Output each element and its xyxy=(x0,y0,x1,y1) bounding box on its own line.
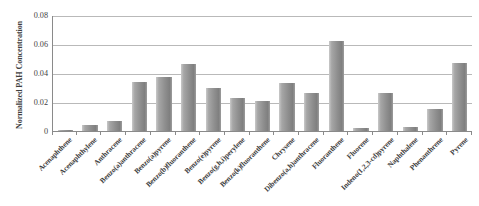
bar[interactable] xyxy=(304,93,319,131)
bar-slot xyxy=(275,16,300,131)
x-axis-tick-mark xyxy=(52,132,53,135)
bar-slot xyxy=(373,16,398,131)
bar-chart: Normalized PAH Concentration 00.020.040.… xyxy=(0,0,479,206)
bar-slot xyxy=(127,16,152,131)
bar-slot xyxy=(423,16,448,131)
y-axis-tick-label: 0.08 xyxy=(22,12,48,20)
y-axis-tick-label: 0.06 xyxy=(22,41,48,49)
bar-slot xyxy=(398,16,423,131)
bar-slot xyxy=(152,16,177,131)
bar-slot xyxy=(447,16,472,131)
bar[interactable] xyxy=(378,93,393,131)
bar[interactable] xyxy=(132,82,147,131)
x-axis-tick-mark xyxy=(471,132,472,135)
x-axis-category-label: Pyrene xyxy=(379,136,470,206)
bar-slot xyxy=(250,16,275,131)
bar-slot xyxy=(53,16,78,131)
bar[interactable] xyxy=(353,128,368,131)
bar[interactable] xyxy=(156,77,171,131)
bar[interactable] xyxy=(255,101,270,131)
bars-layer xyxy=(53,16,472,131)
bar[interactable] xyxy=(427,109,442,131)
bar-slot xyxy=(201,16,226,131)
bar[interactable] xyxy=(403,127,418,131)
bar-slot xyxy=(324,16,349,131)
y-axis-tick-label: 0 xyxy=(22,128,48,136)
bar[interactable] xyxy=(279,83,294,131)
plot-area xyxy=(52,16,472,132)
bar[interactable] xyxy=(82,125,97,131)
bar[interactable] xyxy=(230,98,245,131)
bar[interactable] xyxy=(181,64,196,131)
bar-slot xyxy=(78,16,103,131)
y-axis-tick-label: 0.02 xyxy=(22,99,48,107)
bar-slot xyxy=(349,16,374,131)
bar[interactable] xyxy=(107,121,122,131)
bar[interactable] xyxy=(329,41,344,131)
bar-slot xyxy=(176,16,201,131)
bar-slot xyxy=(102,16,127,131)
y-axis-tick-labels: 00.020.040.060.08 xyxy=(22,16,48,132)
bar-slot xyxy=(299,16,324,131)
y-axis-tick-label: 0.04 xyxy=(22,70,48,78)
bar-slot xyxy=(225,16,250,131)
bar[interactable] xyxy=(58,130,73,131)
x-axis-category-labels: AcenaphtheneAcenaphthyleneAnthraceneBenz… xyxy=(52,136,472,206)
bar[interactable] xyxy=(206,88,221,132)
bar[interactable] xyxy=(452,63,467,131)
